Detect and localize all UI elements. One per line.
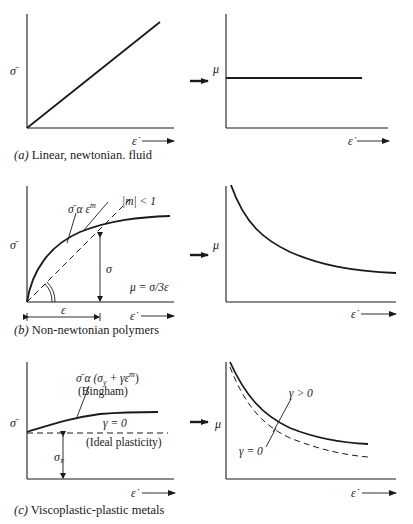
bingham-curve (27, 412, 158, 432)
gamma-zero-curve (230, 367, 368, 457)
panel-c-right-plot: μ γ > 0 γ = 0 ε̇ (214, 362, 396, 500)
gamma-positive-curve (230, 362, 368, 444)
panel-b-right-plot: μ ε̇ (212, 185, 396, 321)
epsilon-span-label: ε (61, 303, 66, 317)
x-axis-label: ε̇ (348, 134, 357, 148)
angle-arc (47, 282, 55, 302)
panel-c-caption: (c) Viscoplastic-plastic metals (14, 503, 164, 517)
x-axis-label: ε̇ (132, 134, 141, 148)
sigma-label: σ (106, 262, 113, 276)
gamma-positive-label: γ > 0 (289, 387, 313, 400)
bingham-label: (Bingham) (78, 385, 128, 398)
y-axis-label: σ̄ (10, 238, 19, 252)
curve-leader (67, 213, 76, 243)
panel-c-left-plot: σ̄ ε̇ σ̄ α (σy + γεm) (Bingham) γ = 0 (I… (10, 362, 175, 500)
y-axis-label: σ̄ (10, 416, 19, 430)
panel-a-left-plot: σ̄ ε̇ (10, 14, 174, 148)
panel-a-caption: (a) Linear, newtonian. fluid (14, 148, 153, 162)
gamma-zero-label: γ = 0 (239, 445, 263, 458)
panel-b-left-plot: σ̄ ε̇ σ̄ α εm |m| < 1 σ μ = σ/3ε ε (10, 186, 174, 323)
viscosity-formula: μ = σ/3ε (129, 281, 169, 294)
y-axis-label: μ (212, 238, 219, 252)
y-axis-label: μ (212, 62, 219, 76)
decreasing-viscosity-curve (231, 185, 396, 273)
panel-b-caption: (b) Non-newtonian polymers (14, 323, 159, 337)
y-axis-label: μ (214, 417, 221, 431)
gamma-zero-label: γ = 0 (103, 417, 127, 430)
x-axis-label: ε̇ (130, 309, 139, 323)
rheology-figure: σ̄ ε̇ (a) Linear, newtonian. fluid μ ε̇ … (0, 0, 413, 524)
curve-label: σ̄ α εm (68, 201, 96, 215)
secant-label: |m| < 1 (122, 195, 156, 208)
x-axis-label: ε̇ (351, 307, 360, 321)
y-axis-label: σ̄ (10, 64, 19, 78)
x-axis-label: ε̇ (351, 486, 360, 500)
linear-stress-curve (27, 22, 160, 128)
gamma-zero-leader (266, 428, 276, 447)
panel-a-right-plot: μ ε̇ (212, 14, 389, 148)
x-axis-label: ε̇ (131, 486, 140, 500)
ideal-plasticity-label: (Ideal plasticity) (86, 436, 162, 449)
